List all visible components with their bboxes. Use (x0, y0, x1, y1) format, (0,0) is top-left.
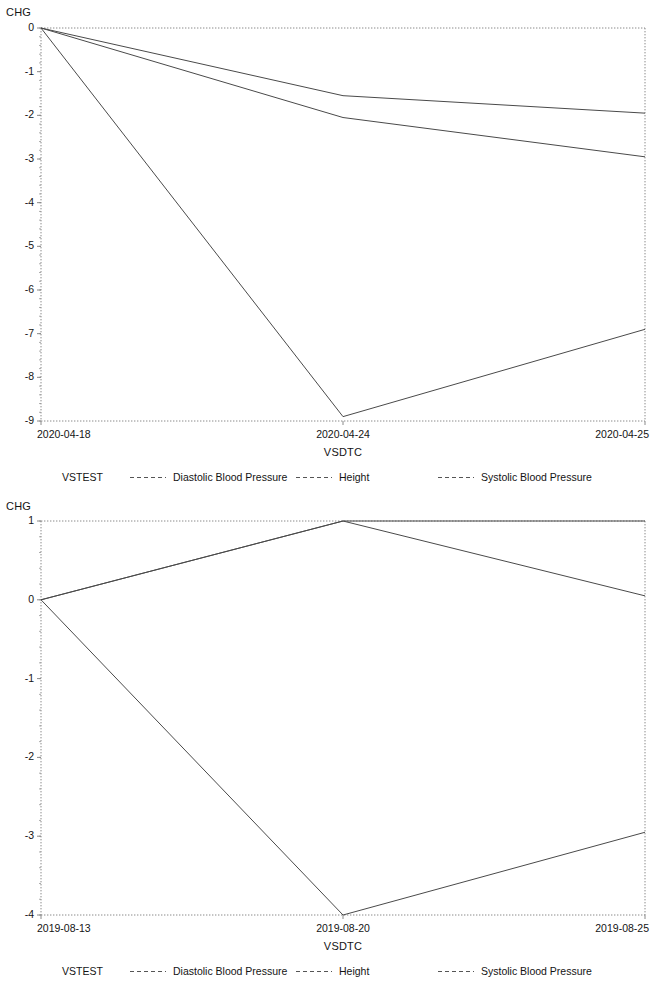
series-line-systolic-blood-pressure (41, 600, 645, 915)
y-tick-label: 0 (0, 21, 34, 33)
y-tick-label: -2 (0, 750, 34, 762)
x-axis-title-top: VSDTC (293, 446, 393, 458)
y-tick-label: -2 (0, 108, 34, 120)
line-chart-bottom-plot (0, 494, 670, 944)
y-tick-label: 0 (0, 593, 34, 605)
legend-entry-diastolic-bottom[interactable]: Diastolic Blood Pressure (130, 965, 287, 977)
legend-title-top: VSTEST (62, 471, 103, 483)
y-axis-title-top: CHG (6, 6, 31, 18)
legend-label-systolic-top: Systolic Blood Pressure (481, 471, 592, 483)
y-tick-label: -7 (0, 327, 34, 339)
x-tick-label: 2019-08-20 (298, 922, 388, 934)
series-line-diastolic-blood-pressure (41, 28, 645, 157)
legend-line-icon-systolic-bottom (438, 971, 474, 972)
y-tick-label: -4 (0, 908, 34, 920)
legend-line-icon-height-bottom (296, 971, 332, 972)
legend-label-height-top: Height (339, 471, 369, 483)
x-tick-label: 2020-04-25 (559, 428, 649, 440)
y-tick-label: -1 (0, 65, 34, 77)
legend-entry-height-bottom[interactable]: Height (296, 965, 369, 977)
legend-line-icon-diastolic-top (130, 477, 166, 478)
legend-line-icon-systolic-top (438, 477, 474, 478)
legend-line-icon-height-top (296, 477, 332, 478)
y-tick-label: 1 (0, 514, 34, 526)
legend-label-height-bottom: Height (339, 965, 369, 977)
legend-top: VSTEST Diastolic Blood Pressure Height S… (0, 468, 670, 490)
y-tick-label: -3 (0, 152, 34, 164)
y-tick-label: -8 (0, 370, 34, 382)
line-chart-top-plot (0, 0, 670, 450)
y-tick-label: -9 (0, 414, 34, 426)
legend-entry-diastolic-top[interactable]: Diastolic Blood Pressure (130, 471, 287, 483)
x-axis-title-bottom: VSDTC (293, 940, 393, 952)
y-axis-title-bottom: CHG (6, 500, 31, 512)
y-tick-label: -1 (0, 672, 34, 684)
legend-bottom: VSTEST Diastolic Blood Pressure Height S… (0, 962, 670, 984)
legend-entry-height-top[interactable]: Height (296, 471, 369, 483)
legend-entry-systolic-bottom[interactable]: Systolic Blood Pressure (438, 965, 592, 977)
legend-label-diastolic-bottom: Diastolic Blood Pressure (173, 965, 287, 977)
legend-line-icon-diastolic-bottom (130, 971, 166, 972)
series-line-systolic-blood-pressure (41, 28, 645, 417)
series-line-diastolic-blood-pressure (41, 521, 645, 600)
chart-panel-bottom: CHG VSDTC VSTEST Diastolic Blood Pressur… (0, 494, 670, 988)
legend-label-systolic-bottom: Systolic Blood Pressure (481, 965, 592, 977)
legend-label-diastolic-top: Diastolic Blood Pressure (173, 471, 287, 483)
chart-panel-top: CHG VSDTC VSTEST Diastolic Blood Pressur… (0, 0, 670, 494)
legend-entry-systolic-top[interactable]: Systolic Blood Pressure (438, 471, 592, 483)
y-tick-label: -5 (0, 239, 34, 251)
series-line-height (41, 521, 645, 600)
x-tick-label: 2019-08-13 (37, 922, 127, 934)
y-tick-label: -3 (0, 829, 34, 841)
legend-title-bottom: VSTEST (62, 965, 103, 977)
x-tick-label: 2019-08-25 (559, 922, 649, 934)
y-tick-label: -4 (0, 196, 34, 208)
x-tick-label: 2020-04-24 (298, 428, 388, 440)
y-tick-label: -6 (0, 283, 34, 295)
series-line-height (41, 28, 645, 113)
x-tick-label: 2020-04-18 (37, 428, 127, 440)
